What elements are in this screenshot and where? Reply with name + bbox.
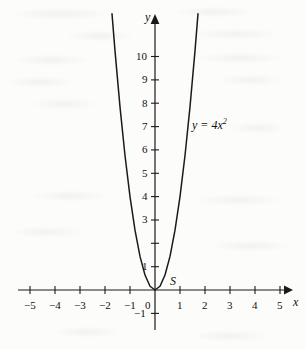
equation-label: y = 4x2 bbox=[192, 118, 227, 131]
coordinate-plot bbox=[0, 0, 306, 349]
y-axis-label: y bbox=[145, 11, 150, 23]
y-tick-label-8: 8 bbox=[142, 98, 148, 109]
x-tick-label--5: −5 bbox=[24, 300, 36, 311]
x-tick-label--4: −4 bbox=[49, 300, 61, 311]
y-tick-label--1: −1 bbox=[134, 308, 146, 319]
y-axis-arrowhead bbox=[151, 14, 160, 24]
y-tick-label-1: 1 bbox=[142, 261, 148, 272]
y-tick-label-5: 5 bbox=[142, 168, 148, 179]
y-tick-label-3: 3 bbox=[142, 214, 148, 225]
x-tick-label--3: −3 bbox=[74, 300, 86, 311]
x-tick-label-3: 3 bbox=[227, 300, 233, 311]
x-tick-label-5: 5 bbox=[277, 300, 283, 311]
x-tick-label-0: 0 bbox=[145, 300, 151, 311]
y-tick-label-10: 10 bbox=[136, 51, 147, 62]
x-tick-label--2: −2 bbox=[99, 300, 111, 311]
x-tick-label-1: 1 bbox=[177, 300, 183, 311]
y-tick-label-7: 7 bbox=[142, 121, 148, 132]
y-tick-label-4: 4 bbox=[142, 191, 148, 202]
y-tick-label-6: 6 bbox=[142, 144, 148, 155]
x-axis-label: x bbox=[293, 296, 298, 308]
y-tick-label-9: 9 bbox=[142, 74, 148, 85]
figure-canvas: −5 −4 −3 −2 −1 0 1 2 3 4 5 −1 1 3 4 5 6 … bbox=[0, 0, 306, 349]
x-axis-arrowhead bbox=[284, 286, 293, 295]
x-tick-label-2: 2 bbox=[202, 300, 208, 311]
equation-exponent: 2 bbox=[223, 117, 227, 126]
vertex-label-s: S bbox=[170, 275, 176, 287]
x-tick-label-4: 4 bbox=[252, 300, 258, 311]
equation-text: y = 4x bbox=[192, 118, 223, 132]
